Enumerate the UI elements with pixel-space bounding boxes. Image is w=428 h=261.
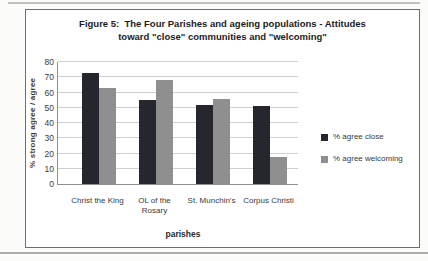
chart-title: Figure 5: The Four Parishes and ageing p… [26,17,419,43]
x-category-label-4: Corpus Christi [240,196,297,216]
x-category-label-2: OL of the Rosary [126,196,183,216]
y-tick-label-20: 20 [36,149,54,159]
legend-item-2: % agree welcoming [321,153,403,165]
chart-title-line1: Figure 5: The Four Parishes and ageing p… [26,17,419,30]
chart-title-line2: toward "close" communities and "welcomin… [26,30,419,43]
y-tick-label-10: 10 [36,164,54,174]
x-axis-labels: Christ the KingOL of the RosarySt. Munch… [69,196,297,216]
scan-artifact-top-line [8,2,420,4]
y-tick-label-60: 60 [36,88,54,98]
bar-group-2 [127,80,184,184]
y-tick-label-50: 50 [36,103,54,113]
y-tick-label-40: 40 [36,118,54,128]
x-category-label-1: Christ the King [69,196,126,216]
y-axis-ticks: 01020304050607080 [36,62,54,184]
bar-series1-cat4 [253,106,270,184]
legend-marker-icon [321,156,328,163]
legend: % agree close% agree welcoming [321,131,403,165]
bar-series2-cat1 [99,88,116,184]
legend-item-1: % agree close [321,131,403,143]
legend-marker-icon [321,134,328,141]
figure-5-chart: Figure 5: The Four Parishes and ageing p… [25,9,420,248]
bar-group-3 [184,99,241,184]
bar-group-4 [241,106,298,184]
bar-series1-cat1 [82,73,99,184]
scan-artifact-bottom-line [0,252,428,254]
y-tick-label-30: 30 [36,133,54,143]
bar-series1-cat3 [196,105,213,184]
y-tick-label-80: 80 [36,57,54,67]
bar-series2-cat3 [213,99,230,184]
legend-label-1: % agree close [333,131,384,143]
bar-groups [70,62,298,184]
bar-series2-cat2 [156,80,173,184]
plot-area [57,62,298,185]
scanned-page: Figure 5: The Four Parishes and ageing p… [0,0,428,261]
x-axis-title: parishes [69,229,297,239]
legend-label-2: % agree welcoming [333,153,403,165]
bar-series2-cat4 [270,157,287,184]
x-category-label-3: St. Munchin's [183,196,240,216]
y-tick-label-0: 0 [36,179,54,189]
bar-group-1 [70,73,127,184]
y-tick-label-70: 70 [36,72,54,82]
bar-series1-cat2 [139,100,156,184]
